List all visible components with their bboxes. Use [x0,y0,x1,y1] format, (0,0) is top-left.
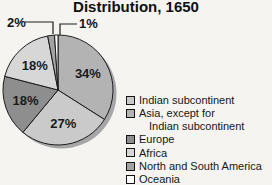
pie-value-label-2: 18% [13,93,39,108]
figure: Distribution, 1650 34%27%18%18% 2% 1% In… [0,0,272,185]
legend: Indian subcontinent Asia, except forIndi… [126,94,272,185]
legend-item-europe: Europe [126,133,272,145]
legend-item-north-south-america: North and South America [126,160,272,172]
pie-value-label-3: 18% [22,58,48,73]
legend-swatch-europe [126,135,135,144]
legend-item-indian-subcontinent: Indian subcontinent [126,94,272,106]
legend-label: North and South America [139,160,262,172]
legend-item-asia-except-indian-subcontinent: Asia, except forIndian subcontinent [126,107,272,132]
pie-value-label-0: 34% [75,66,101,81]
legend-label: Indian subcontinent [139,94,234,106]
legend-label: Oceania [139,173,180,185]
legend-label: Europe [139,133,174,145]
legend-swatch-north-south-america [126,162,135,171]
pie-callout-label-oceania: 1% [79,17,98,31]
legend-item-africa: Africa [126,147,272,159]
legend-label: Asia, except forIndian subcontinent [139,107,244,132]
legend-item-oceania: Oceania [126,173,272,185]
legend-swatch-asia-except-indian-subcontinent [126,109,135,118]
legend-label: Africa [139,147,167,159]
legend-swatch-africa [126,148,135,157]
legend-swatch-indian-subcontinent [126,96,135,105]
pie-callout-label-north-south-america: 2% [7,16,26,30]
pie-value-label-1: 27% [50,116,76,131]
callout-line-oceania [60,24,77,35]
callout-line-north-south-america [25,22,53,34]
legend-swatch-oceania [126,175,135,184]
legend-label-line1: Asia, except for [139,107,215,119]
legend-label-line2: Indian subcontinent [139,120,244,132]
